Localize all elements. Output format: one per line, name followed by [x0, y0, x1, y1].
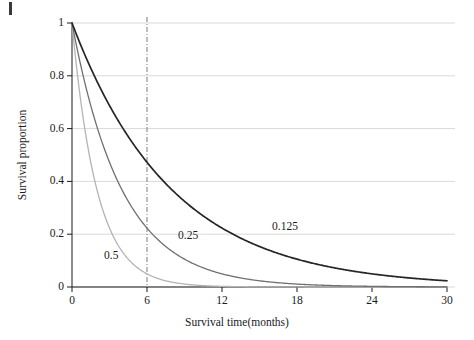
survival-curve-figure: 0 0.2 0.4 0.6 0.8 1 0 6 12 18 24 30 Surv… [0, 0, 474, 340]
y-tick-label-4: 0.8 [50, 70, 64, 82]
y-tick-label-3: 0.6 [50, 123, 64, 135]
y-tick-label-1: 0.2 [50, 228, 64, 240]
series-curve-group [72, 23, 447, 287]
y-tick-label-0: 0 [58, 281, 64, 293]
x-tick-label-0: 0 [69, 295, 75, 307]
curve-label-hazard-0-125: 0.125 [272, 221, 298, 233]
y-tick-label-2: 0.4 [50, 176, 64, 188]
x-tick-label-4: 24 [366, 295, 378, 307]
chart-plot-area [0, 0, 474, 340]
x-tick-label-5: 30 [441, 295, 453, 307]
x-tick-label-1: 6 [144, 295, 150, 307]
curve-label-hazard-0-5: 0.5 [104, 250, 118, 262]
x-tick-label-3: 18 [291, 295, 303, 307]
y-tick-label-5: 1 [58, 17, 64, 29]
tick-mark-group [67, 23, 447, 292]
curve-label-hazard-0-25: 0.25 [178, 230, 198, 242]
x-axis-title: Survival time(months) [185, 316, 289, 328]
x-tick-label-2: 12 [216, 295, 228, 307]
series-curve-0-125 [72, 23, 447, 281]
y-axis-title: Survival proportion [16, 110, 28, 200]
